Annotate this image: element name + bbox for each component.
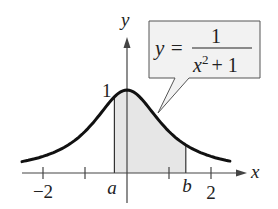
tick-label-y1: 1 [102,80,112,101]
shaded-area [114,90,185,173]
x-axis-label: x [250,161,260,182]
equation-denominator: x2+ 1 [192,52,238,76]
x-axis-arrow-icon [236,170,247,177]
y-axis-label: y [119,9,130,30]
tick-label-2: 2 [206,182,216,203]
label-b: b [182,175,192,196]
equation-lhs: y = [153,36,184,60]
y-axis-arrow-icon [124,37,131,48]
equation-callout [149,21,260,113]
equation-numerator: 1 [211,25,221,47]
tick-label-neg2: −2 [33,181,53,202]
label-a: a [107,177,117,198]
chart-canvas: y = 1 x2+ 1 y x −2 2 1 a b [0,0,278,209]
